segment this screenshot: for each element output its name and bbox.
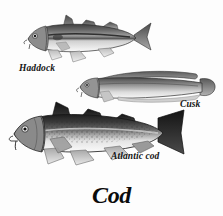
figure-haddock: [18, 8, 156, 66]
fish-illustration-plate: Haddock Cusk Atlantic cod Cod: [0, 0, 223, 216]
label-haddock: Haddock: [19, 63, 55, 73]
haddock-head: [24, 26, 48, 51]
haddock-caudal-fin: [134, 23, 151, 50]
cusk-head: [77, 78, 100, 98]
cod-chin-barbel: [15, 141, 16, 150]
figure-atlantic-cod: [6, 96, 192, 168]
haddock-chin-barbel: [29, 44, 30, 49]
plate-title: Cod: [0, 182, 223, 209]
label-cusk: Cusk: [180, 99, 200, 109]
label-atlantic-cod: Atlantic cod: [111, 151, 159, 161]
cod-head: [9, 116, 45, 152]
